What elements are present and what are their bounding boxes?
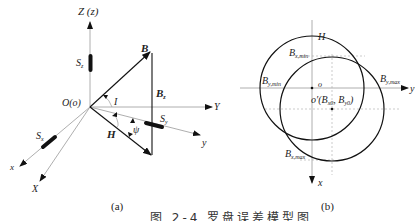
y-axis-global-label: Y [214,101,221,112]
circle-h-label: H [317,31,326,42]
figure-canvas: Z (z) O(o) Y y x X B Bz H I ψ Sz Sy Sx (… [0,0,420,221]
b-vector-label: B [140,42,148,54]
sensor-sy-label: Sy [160,113,168,125]
angle-psi-label: ψ [133,124,140,135]
x-axis-global-label: X [31,183,39,194]
b-origin-label: o [318,80,322,89]
sensor-sz-label: Sz [76,57,84,69]
center-point [331,108,334,111]
angle-i-label: I [113,96,118,107]
origin-point [311,87,314,90]
by-min-label: By,min [262,75,281,87]
bz-vector-label: Bz [155,87,166,100]
b-vector [90,52,150,107]
b-x-axis-label: x [317,177,323,188]
h-vector [90,107,151,155]
panel-b: H o o′(Bx0, By0) Bx,min By,min By,max Bx… [240,20,415,213]
panel-b-label: (b) [321,200,334,213]
x-axis-body-label: x [9,162,14,172]
h-vector-label: H [106,128,116,140]
angle-i-arc [103,95,112,107]
sensor-sz [89,54,93,72]
z-axis-label: Z (z) [78,5,99,18]
origin-label: O(o) [62,97,82,109]
angle-psi-arrow-icon [130,118,135,123]
by-max-label: By,max [380,73,400,85]
b-y-axis-label: y [409,83,415,94]
bx-max-label: Bx,max [285,148,306,160]
panel-a: Z (z) O(o) Y y x X B Bz H I ψ Sz Sy Sx (… [9,5,221,213]
y-axis-body-label: y [201,137,207,148]
center-label: o′(Bx0, By0) [311,94,354,106]
figure-caption: 图 2-4 罗盘误差模型图 [150,210,312,221]
sensor-sx [43,137,55,147]
panel-a-label: (a) [111,200,124,213]
bx-min-label: Bx,min [289,47,308,59]
sensor-sx-label: Sx [36,130,44,142]
